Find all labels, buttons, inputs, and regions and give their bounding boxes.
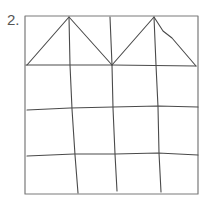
vertical-line-3	[154, 17, 161, 192]
vertical-line-1	[69, 17, 78, 193]
grid-diagram	[0, 0, 209, 200]
vertical-line-2	[110, 17, 117, 191]
horizontal-line-3	[27, 153, 198, 156]
horizontal-line-1	[26, 65, 196, 66]
